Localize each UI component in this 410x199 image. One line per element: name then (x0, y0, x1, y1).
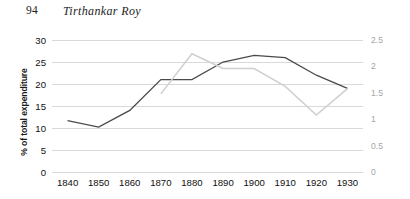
gridline (52, 172, 363, 173)
y-axis-left-tick-label: 20 (35, 79, 46, 90)
y-axis-left-tick-label: 5 (41, 145, 46, 156)
x-axis-tick-label: 1910 (275, 177, 296, 188)
x-axis-tick-label: 1890 (212, 177, 233, 188)
y-axis-right-tick-label: 1 (371, 114, 376, 124)
x-axis-tick-label: 1840 (57, 177, 78, 188)
series-line-secondary-light-series (161, 54, 348, 115)
y-axis-right-tick-label: 1.5 (371, 88, 383, 98)
page-running-head: 94 Tirthankar Roy (0, 4, 410, 22)
running-head-title: Tirthankar Roy (63, 4, 141, 19)
y-axis-left-tick-label: 10 (35, 123, 46, 134)
y-axis-left-tick-label: 0 (41, 167, 46, 178)
x-axis-tick-label: 1860 (119, 177, 140, 188)
y-axis-left-tick-label: 25 (35, 57, 46, 68)
x-axis-tick-label: 1880 (181, 177, 202, 188)
y-axis-title: % of total expenditure (19, 47, 29, 177)
x-axis-tick-label: 1850 (88, 177, 109, 188)
series-line-primary-dark-series (68, 55, 348, 127)
page-number: 94 (26, 4, 38, 16)
y-axis-right-tick-label: 2 (371, 61, 376, 71)
y-axis-right-tick-label: 0 (371, 167, 376, 177)
y-axis-right-tick-label: 2.5 (371, 35, 383, 45)
x-axis-tick-label: 1930 (337, 177, 358, 188)
y-axis-left-tick-label: 15 (35, 101, 46, 112)
y-axis-left-tick-label: 30 (35, 35, 46, 46)
line-chart-figure: % of total expenditure 051015202530 00.5… (0, 22, 410, 199)
x-axis-tick-label: 1920 (306, 177, 327, 188)
series-lines (52, 40, 363, 172)
plot-area: 051015202530 00.511.522.5 18401850186018… (52, 40, 363, 172)
x-axis-tick-label: 1870 (150, 177, 171, 188)
y-axis-right-tick-label: 0.5 (371, 141, 383, 151)
x-axis-tick-label: 1900 (243, 177, 264, 188)
